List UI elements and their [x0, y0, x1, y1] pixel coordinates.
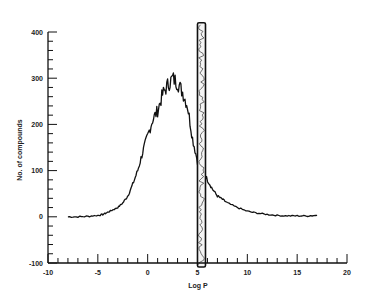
x-tick-label: 20: [343, 269, 351, 276]
chart: -1000100200300400-10-505101520 Log P No.…: [0, 0, 366, 303]
y-tick-label: 200: [31, 121, 43, 128]
x-tick-label: 5: [196, 269, 200, 276]
x-tick-label: 0: [146, 269, 150, 276]
x-axis-label: Log P: [188, 282, 208, 290]
y-tick-label: 300: [31, 75, 43, 82]
series-line: [68, 73, 317, 218]
x-tick-label: -10: [43, 269, 53, 276]
y-axis-label: No. of compounds: [16, 119, 24, 181]
y-tick-label: 100: [31, 167, 43, 174]
y-tick-label: 400: [31, 29, 43, 36]
axes: -1000100200300400-10-505101520: [29, 29, 351, 277]
y-tick-label: -100: [29, 260, 43, 267]
x-tick-label: 10: [243, 269, 251, 276]
series-polyline: [68, 73, 317, 218]
y-tick-label: 0: [39, 213, 43, 220]
band-outline: [197, 23, 205, 267]
x-tick-label: -5: [95, 269, 101, 276]
vertical-band: [197, 23, 205, 267]
x-tick-label: 15: [293, 269, 301, 276]
